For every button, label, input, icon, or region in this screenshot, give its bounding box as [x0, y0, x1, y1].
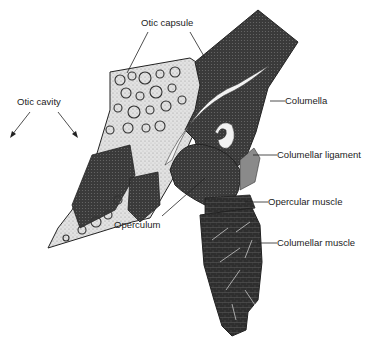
arrowhead-right	[72, 131, 78, 138]
columellar-muscle-shape	[200, 208, 262, 336]
otic-capsule-leader-2	[190, 32, 205, 58]
capsule-dark-region-2	[128, 172, 160, 222]
otic-cavity-arrow-left	[12, 112, 30, 135]
arrowhead-left	[10, 131, 16, 138]
otic-cavity-arrow-right	[58, 112, 76, 135]
label-columellar-muscle: Columellar muscle	[277, 238, 355, 248]
label-opercular-muscle: Opercular muscle	[268, 197, 342, 207]
anatomical-diagram	[0, 0, 373, 348]
label-otic-cavity: Otic cavity	[17, 97, 61, 107]
label-otic-capsule: Otic capsule	[141, 18, 193, 28]
label-columella: Columella	[285, 96, 327, 106]
label-columellar-ligament: Columellar ligament	[277, 150, 361, 160]
label-operculum: Operculum	[114, 220, 160, 230]
